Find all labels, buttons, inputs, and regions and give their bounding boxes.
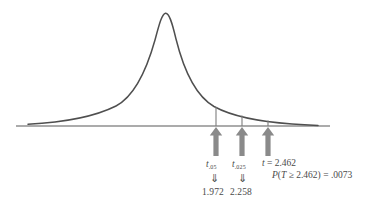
chart-background (0, 0, 374, 207)
t-distribution-chart (0, 0, 374, 207)
